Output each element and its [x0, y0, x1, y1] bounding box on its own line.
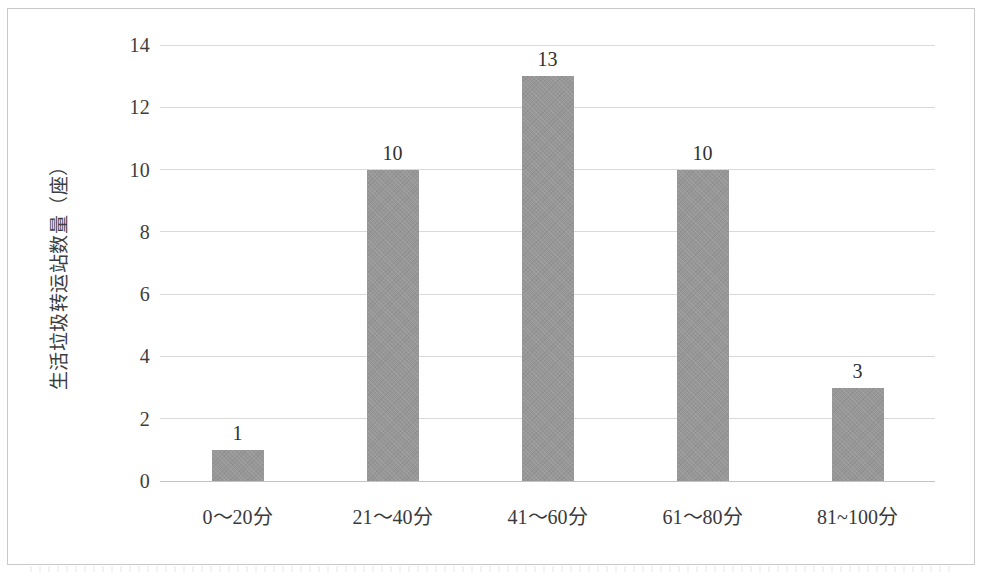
bar-value-label: 13 [508, 49, 588, 69]
bar-value-label: 1 [198, 423, 278, 443]
y-axis-tick-label: 6 [108, 284, 150, 304]
x-axis-tick-label: 0～20分 [148, 505, 328, 529]
y-axis-title: 生活垃圾转运站数量（座） [49, 73, 71, 473]
bar[interactable] [522, 76, 574, 481]
y-axis-tick-label: 12 [108, 97, 150, 117]
gridline [160, 45, 935, 46]
bar[interactable] [677, 170, 729, 481]
y-axis-title-wrapper: 生活垃圾转运站数量（座） [0, 0, 104, 573]
y-axis-tick-label: 14 [108, 35, 150, 55]
bar[interactable] [832, 388, 884, 481]
y-axis-tick-label: 2 [108, 409, 150, 429]
y-axis-tick-label: 0 [108, 471, 150, 491]
x-axis-tick-label: 21～40分 [303, 505, 483, 529]
x-axis-tick-label: 81~100分 [768, 505, 948, 529]
x-axis-tick-label: 61～80分 [613, 505, 793, 529]
bar[interactable] [212, 450, 264, 481]
y-axis-tick-label: 10 [108, 160, 150, 180]
scan-artifact [30, 566, 950, 572]
figure-container: 生活垃圾转运站数量（座） 02468101214 11013103 0～20分2… [0, 0, 984, 573]
bar-value-label: 10 [353, 143, 433, 163]
y-axis-tick-labels: 02468101214 [104, 45, 150, 481]
plot-area: 11013103 [160, 45, 935, 481]
x-axis-tick-label: 41～60分 [458, 505, 638, 529]
bar-value-label: 3 [818, 361, 898, 381]
y-axis-tick-label: 4 [108, 346, 150, 366]
bar[interactable] [367, 170, 419, 481]
bar-value-label: 10 [663, 143, 743, 163]
y-axis-tick-label: 8 [108, 222, 150, 242]
